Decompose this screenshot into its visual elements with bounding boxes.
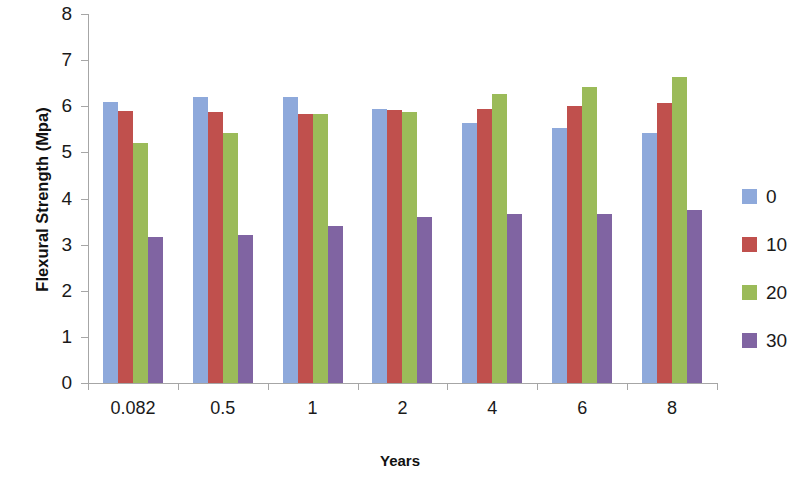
y-axis-title: Flexural Strength (Mpa) (33, 70, 52, 330)
x-axis-tick (717, 383, 718, 390)
bar (148, 237, 163, 383)
legend-item[interactable]: 20 (742, 268, 802, 316)
bar (642, 133, 657, 383)
bar (313, 114, 328, 383)
y-axis-tick: 5 (81, 152, 88, 153)
x-axis-tick (447, 383, 448, 390)
legend-swatch-icon (742, 189, 757, 204)
bar (387, 110, 402, 383)
y-axis-tick: 7 (81, 60, 88, 61)
bar-group (627, 14, 717, 383)
y-axis-tick-label: 1 (61, 326, 81, 347)
bar-group (178, 14, 268, 383)
x-axis-tick (268, 383, 269, 390)
y-axis-tick: 2 (81, 291, 88, 292)
legend-item[interactable]: 10 (742, 220, 802, 268)
bar (328, 226, 343, 383)
bar-group (537, 14, 627, 383)
x-axis-tick-label: 8 (627, 398, 717, 419)
bar-group (268, 14, 358, 383)
x-axis-tick (178, 383, 179, 390)
legend-swatch-icon (742, 285, 757, 300)
bar (477, 109, 492, 383)
y-axis-tick: 6 (81, 106, 88, 107)
plot-bars-layer (88, 14, 717, 383)
y-axis-tick-label: 7 (61, 49, 81, 70)
x-axis-tick-label: 0.082 (88, 398, 178, 419)
x-axis-tick (627, 383, 628, 390)
x-axis-title: Years (80, 452, 720, 469)
bar (552, 128, 567, 383)
x-axis-tick-label: 2 (358, 398, 448, 419)
x-axis-tick (537, 383, 538, 390)
x-axis-line (88, 383, 717, 384)
bar-group (358, 14, 448, 383)
bar (507, 214, 522, 383)
flexural-strength-bar-chart: Flexural Strength (Mpa) 012345678 0.0820… (0, 0, 807, 485)
x-axis-tick-label: 6 (537, 398, 627, 419)
y-axis-tick: 0 (81, 383, 88, 384)
bar (672, 77, 687, 383)
bar-group (447, 14, 537, 383)
bar (283, 97, 298, 383)
legend-item[interactable]: 30 (742, 316, 802, 364)
y-axis-tick: 8 (81, 14, 88, 15)
y-axis-tick: 1 (81, 337, 88, 338)
legend-item[interactable]: 0 (742, 172, 802, 220)
x-axis-tick (358, 383, 359, 390)
y-axis-tick-label: 4 (61, 188, 81, 209)
bar (193, 97, 208, 383)
chart-legend: 0102030 (742, 172, 802, 364)
legend-label: 0 (766, 187, 777, 206)
x-axis-tick (88, 383, 89, 390)
y-axis-tick: 4 (81, 199, 88, 200)
y-axis-tick-label: 8 (61, 3, 81, 24)
y-axis-tick-label: 6 (61, 95, 81, 116)
bar-group (88, 14, 178, 383)
legend-label: 30 (766, 331, 787, 350)
bar (118, 111, 133, 383)
bar (103, 102, 118, 383)
bar (687, 210, 702, 383)
legend-swatch-icon (742, 333, 757, 348)
bar (298, 114, 313, 383)
y-axis-tick-label: 3 (61, 234, 81, 255)
bar (208, 112, 223, 383)
y-axis-tick-label: 2 (61, 280, 81, 301)
bar (657, 103, 672, 383)
x-axis-tick-label: 0.5 (178, 398, 268, 419)
bar (238, 235, 253, 383)
bar (372, 109, 387, 383)
y-axis-tick-label: 0 (61, 372, 81, 393)
bar (417, 217, 432, 383)
legend-label: 20 (766, 283, 787, 302)
bar (402, 112, 417, 383)
y-axis-tick-label: 5 (61, 141, 81, 162)
bar (582, 87, 597, 383)
bar (567, 106, 582, 383)
y-axis-tick: 3 (81, 245, 88, 246)
x-axis-tick-label: 4 (447, 398, 537, 419)
legend-label: 10 (766, 235, 787, 254)
bar (133, 143, 148, 383)
bar (492, 94, 507, 383)
bar (597, 214, 612, 383)
bar (462, 123, 477, 383)
bar (223, 133, 238, 383)
x-axis-tick-label: 1 (268, 398, 358, 419)
legend-swatch-icon (742, 237, 757, 252)
